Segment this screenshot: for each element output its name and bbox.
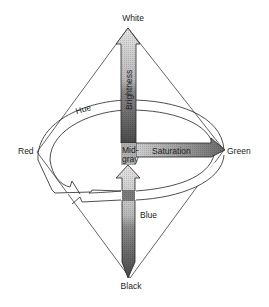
label-saturation: Saturation: [152, 146, 191, 156]
label-brightness: Brightness: [124, 70, 134, 110]
label-green: Green: [227, 146, 251, 156]
label-red: Red: [18, 146, 34, 156]
label-blue: Blue: [140, 210, 157, 220]
color-solid-diagram: White Black Red Green Hue Brightness Sat…: [0, 0, 269, 307]
label-hue: Hue: [74, 102, 92, 116]
label-mid-gray-2: gray: [122, 154, 139, 164]
lower-brightness-arrow: [116, 165, 140, 278]
label-white: White: [122, 13, 144, 23]
label-black: Black: [121, 281, 143, 291]
